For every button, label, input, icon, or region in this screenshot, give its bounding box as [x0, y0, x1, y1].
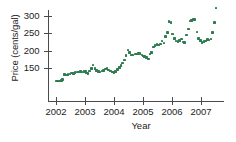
y-tick-mark: [44, 68, 52, 69]
data-point: [180, 38, 183, 41]
data-point: [187, 28, 190, 31]
data-point: [159, 43, 162, 46]
x-tick-mark: [85, 97, 86, 105]
x-tick-label: 2007: [186, 107, 216, 117]
data-point: [170, 21, 173, 24]
y-axis-line: [48, 10, 49, 101]
data-point: [125, 54, 128, 57]
x-tick-mark: [114, 97, 115, 105]
plot-area: 150200250300200220032004200520062007: [0, 0, 236, 142]
data-point: [163, 42, 166, 45]
x-tick-mark: [56, 97, 57, 105]
x-axis-line: [48, 101, 225, 102]
data-point: [171, 33, 174, 36]
data-point: [61, 78, 64, 81]
y-tick-mark: [44, 33, 52, 34]
y-tick-label: 300: [14, 11, 40, 21]
y-tick-mark: [44, 51, 52, 52]
data-point: [194, 18, 197, 21]
data-point: [215, 7, 218, 10]
data-point: [90, 67, 93, 70]
y-tick-mark: [44, 16, 52, 17]
data-point: [92, 64, 95, 67]
x-tick-label: 2002: [41, 107, 71, 117]
x-tick-label: 2003: [70, 107, 100, 117]
y-tick-label: 150: [14, 63, 40, 73]
x-tick-mark: [143, 97, 144, 105]
x-tick-mark: [172, 97, 173, 105]
data-point: [123, 59, 126, 62]
y-tick-label: 250: [14, 28, 40, 38]
gas-price-scatter-figure: Price (cents/gal) Year 15020025030020022…: [0, 0, 236, 142]
data-point: [164, 35, 167, 38]
x-tick-label: 2005: [128, 107, 158, 117]
data-point: [166, 31, 169, 34]
x-tick-label: 2006: [157, 107, 187, 117]
x-tick-label: 2004: [99, 107, 129, 117]
data-point: [211, 31, 214, 34]
data-point: [185, 34, 188, 37]
data-point: [87, 72, 90, 75]
x-tick-mark: [201, 97, 202, 105]
data-point: [183, 41, 186, 44]
y-tick-label: 200: [14, 46, 40, 56]
data-point: [210, 38, 213, 41]
data-point: [196, 31, 199, 34]
data-point: [150, 51, 153, 54]
data-point: [213, 21, 216, 24]
data-point: [147, 58, 150, 61]
data-point: [120, 64, 123, 67]
